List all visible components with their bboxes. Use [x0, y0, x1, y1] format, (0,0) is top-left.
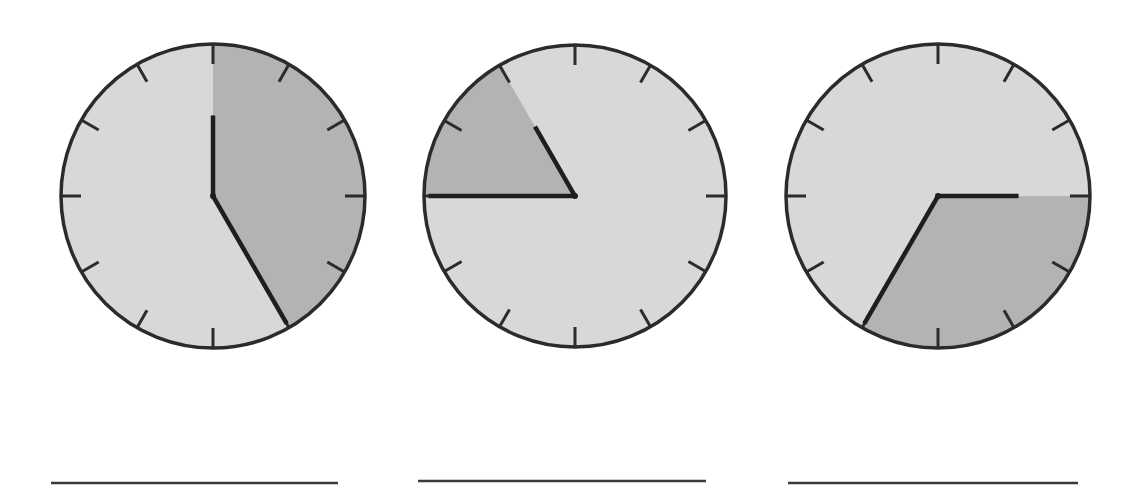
- clock-3: [786, 44, 1090, 348]
- center-pivot: [210, 193, 216, 199]
- center-pivot: [935, 193, 941, 199]
- center-pivot: [572, 193, 578, 199]
- clock-worksheet: [0, 0, 1146, 499]
- clock-1: [61, 44, 365, 348]
- clock-2: [424, 45, 726, 347]
